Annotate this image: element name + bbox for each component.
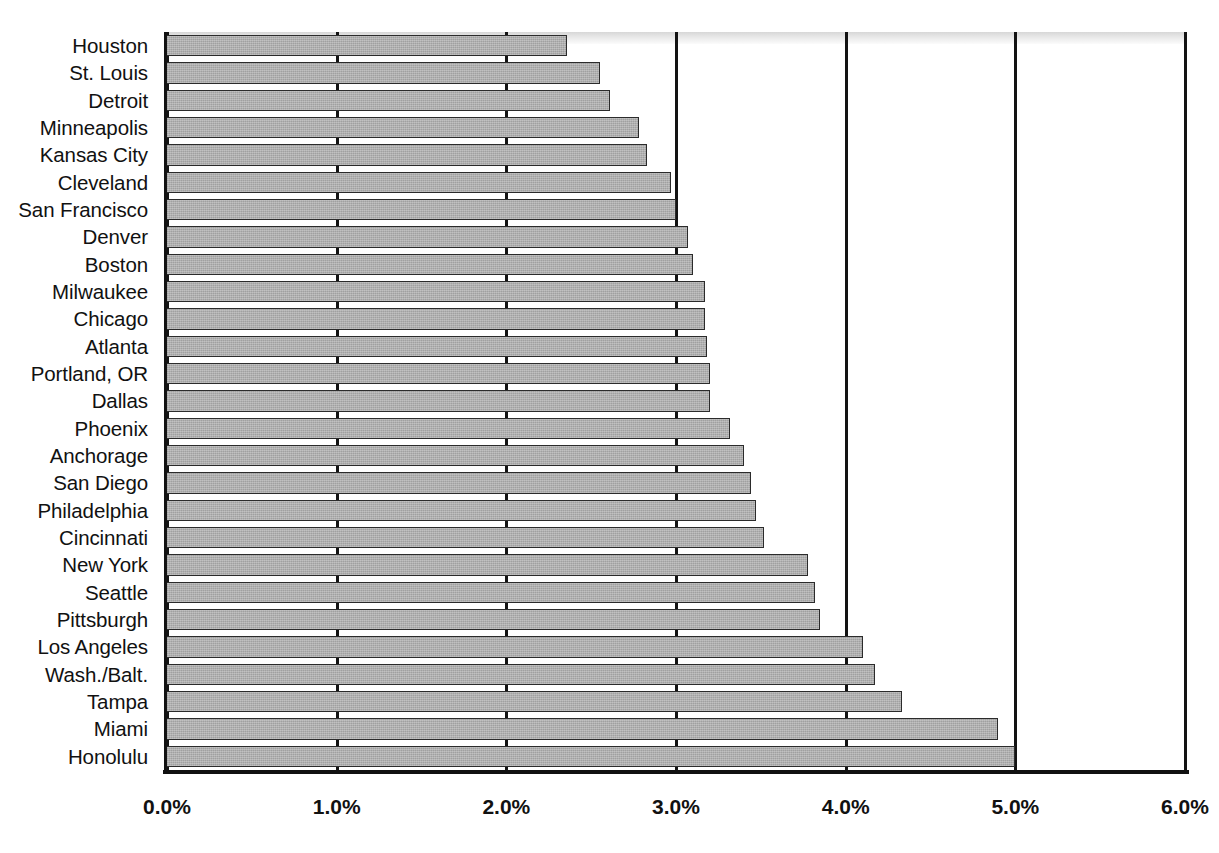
bar-row bbox=[167, 715, 1185, 742]
bar-row bbox=[167, 415, 1185, 442]
bar bbox=[167, 199, 676, 220]
bar bbox=[167, 90, 610, 111]
bar bbox=[167, 582, 815, 603]
bar bbox=[167, 336, 707, 357]
bar bbox=[167, 62, 600, 83]
bar bbox=[167, 418, 730, 439]
x-axis-tick-label: 6.0% bbox=[1161, 795, 1209, 819]
bar-row bbox=[167, 305, 1185, 332]
y-axis-label: Dallas bbox=[0, 387, 160, 414]
bar-row bbox=[167, 169, 1185, 196]
bar-row bbox=[167, 387, 1185, 414]
y-axis-label: Los Angeles bbox=[0, 633, 160, 660]
y-axis-label: Seattle bbox=[0, 579, 160, 606]
y-axis-label: Miami bbox=[0, 715, 160, 742]
bar bbox=[167, 308, 705, 329]
y-axis-label: Milwaukee bbox=[0, 278, 160, 305]
y-axis-category-labels: HoustonSt. LouisDetroitMinneapolisKansas… bbox=[0, 32, 160, 770]
bar bbox=[167, 691, 902, 712]
bar bbox=[167, 35, 567, 56]
plot-area bbox=[167, 32, 1185, 770]
bar bbox=[167, 226, 688, 247]
y-axis-label: Cleveland bbox=[0, 169, 160, 196]
bar bbox=[167, 445, 744, 466]
bar bbox=[167, 172, 671, 193]
x-axis-tick-label: 3.0% bbox=[652, 795, 700, 819]
x-axis-tick-labels: 0.0%1.0%2.0%3.0%4.0%5.0%6.0% bbox=[0, 795, 1219, 835]
bar bbox=[167, 117, 639, 138]
bar-row bbox=[167, 661, 1185, 688]
y-axis-label: San Diego bbox=[0, 469, 160, 496]
bar-row bbox=[167, 223, 1185, 250]
bar-row bbox=[167, 524, 1185, 551]
bar-chart: HoustonSt. LouisDetroitMinneapolisKansas… bbox=[0, 0, 1219, 853]
y-axis-label: San Francisco bbox=[0, 196, 160, 223]
bar-row bbox=[167, 278, 1185, 305]
x-axis-line bbox=[163, 770, 1189, 774]
x-axis-tick-label: 0.0% bbox=[143, 795, 191, 819]
y-axis-label: Anchorage bbox=[0, 442, 160, 469]
y-axis-label: St. Louis bbox=[0, 59, 160, 86]
bar-row bbox=[167, 141, 1185, 168]
y-axis-label: Philadelphia bbox=[0, 497, 160, 524]
bar bbox=[167, 254, 693, 275]
y-axis-label: Houston bbox=[0, 32, 160, 59]
y-axis-label: Tampa bbox=[0, 688, 160, 715]
bar bbox=[167, 609, 820, 630]
bar bbox=[167, 472, 751, 493]
bar bbox=[167, 363, 710, 384]
bar-row bbox=[167, 196, 1185, 223]
bar bbox=[167, 390, 710, 411]
bar bbox=[167, 636, 863, 657]
x-axis-tick-label: 5.0% bbox=[991, 795, 1039, 819]
x-axis-tick-label: 1.0% bbox=[313, 795, 361, 819]
bar-row bbox=[167, 579, 1185, 606]
y-axis-label: Boston bbox=[0, 251, 160, 278]
bar-row bbox=[167, 688, 1185, 715]
bar-row bbox=[167, 469, 1185, 496]
bar bbox=[167, 144, 647, 165]
y-axis-label: Honolulu bbox=[0, 743, 160, 770]
bar-row bbox=[167, 59, 1185, 86]
bar-row bbox=[167, 442, 1185, 469]
y-axis-label: Pittsburgh bbox=[0, 606, 160, 633]
x-axis-tick-label: 4.0% bbox=[822, 795, 870, 819]
bar-row bbox=[167, 743, 1185, 770]
bar-row bbox=[167, 633, 1185, 660]
bar bbox=[167, 746, 1015, 767]
y-axis-label: Phoenix bbox=[0, 415, 160, 442]
bar-row bbox=[167, 497, 1185, 524]
bar bbox=[167, 718, 998, 739]
bar bbox=[167, 554, 808, 575]
bar-row bbox=[167, 114, 1185, 141]
bar-row bbox=[167, 333, 1185, 360]
bar-row bbox=[167, 32, 1185, 59]
x-axis-tick-label: 2.0% bbox=[482, 795, 530, 819]
y-axis-label: Cincinnati bbox=[0, 524, 160, 551]
y-axis-label: Kansas City bbox=[0, 141, 160, 168]
bar-row bbox=[167, 606, 1185, 633]
bar-row bbox=[167, 360, 1185, 387]
y-axis-label: Portland, OR bbox=[0, 360, 160, 387]
bar-row bbox=[167, 251, 1185, 278]
bar bbox=[167, 500, 756, 521]
bar bbox=[167, 281, 705, 302]
bar bbox=[167, 527, 764, 548]
y-axis-label: Minneapolis bbox=[0, 114, 160, 141]
bar-row bbox=[167, 551, 1185, 578]
y-axis-label: Atlanta bbox=[0, 333, 160, 360]
y-axis-label: Wash./Balt. bbox=[0, 661, 160, 688]
y-axis-label: Detroit bbox=[0, 87, 160, 114]
y-axis-label: Chicago bbox=[0, 305, 160, 332]
bar bbox=[167, 664, 875, 685]
y-axis-label: New York bbox=[0, 551, 160, 578]
y-axis-label: Denver bbox=[0, 223, 160, 250]
bar-row bbox=[167, 87, 1185, 114]
